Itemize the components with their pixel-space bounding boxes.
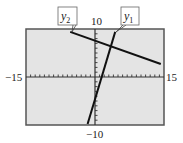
callout-y1-sub: 1 bbox=[129, 16, 133, 25]
callout-y2-sub: 2 bbox=[66, 16, 70, 25]
x-min-label: −15 bbox=[5, 71, 23, 83]
x-max-label: 15 bbox=[166, 71, 178, 83]
y-min-label: −10 bbox=[86, 128, 104, 140]
graph-figure: −15 15 10 −10 y2 y1 bbox=[0, 0, 183, 143]
y-max-label: 10 bbox=[91, 15, 103, 27]
